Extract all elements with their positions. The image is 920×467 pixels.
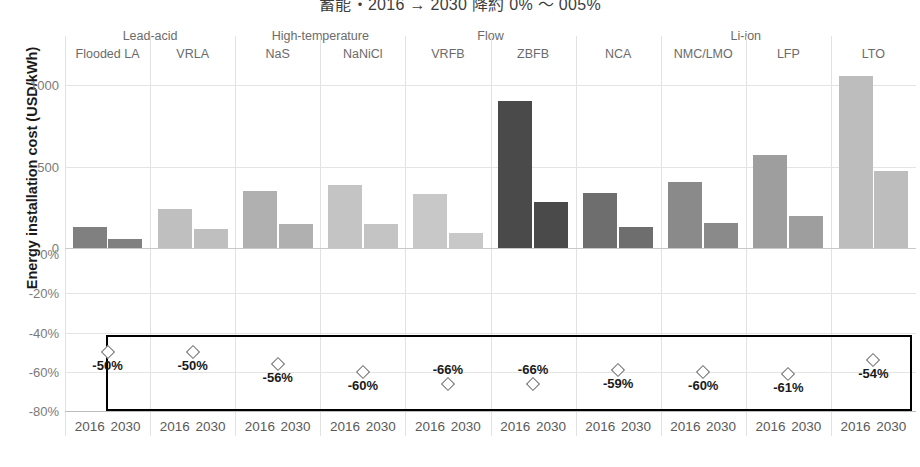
gridline bbox=[65, 333, 916, 334]
x-tick-year: 2016 bbox=[160, 419, 190, 434]
x-tick-year: 2016 bbox=[75, 419, 105, 434]
reduction-label-lto: -54% bbox=[858, 366, 888, 381]
bar-flooded-la-2030 bbox=[108, 239, 142, 248]
x-tick-year: 2030 bbox=[621, 419, 651, 434]
bar-nca-2016 bbox=[583, 193, 617, 248]
bar-nmc-lmo-2030 bbox=[704, 223, 738, 248]
bar-zbfb-2016 bbox=[498, 101, 532, 248]
bar-nas-2016 bbox=[243, 191, 277, 248]
bar-vrfb-2016 bbox=[413, 194, 447, 248]
bar-lto-2030 bbox=[874, 171, 908, 248]
bar-vrla-2030 bbox=[194, 229, 228, 248]
y-tick-percent: 0% bbox=[40, 247, 59, 262]
bar-lfp-2016 bbox=[753, 155, 787, 248]
bar-vrfb-2030 bbox=[449, 233, 483, 248]
reduction-label-nas: -56% bbox=[263, 370, 293, 385]
bar-nmc-lmo-2016 bbox=[668, 182, 702, 248]
bar-series bbox=[65, 28, 916, 248]
x-tick-year: 2016 bbox=[585, 419, 615, 434]
reduction-label-zbfb: -66% bbox=[518, 362, 548, 377]
x-tick-year: 2030 bbox=[366, 419, 396, 434]
x-tick-year: 2030 bbox=[451, 419, 481, 434]
x-tick-year: 2030 bbox=[110, 419, 140, 434]
gridline bbox=[65, 411, 916, 412]
bar-nanicl-2016 bbox=[328, 185, 362, 248]
bar-nanicl-2030 bbox=[364, 224, 398, 248]
reduction-label-vrla: -50% bbox=[177, 358, 207, 373]
gridline bbox=[65, 248, 916, 249]
y-tick-percent: -20% bbox=[29, 286, 59, 301]
bar-vrla-2016 bbox=[158, 209, 192, 248]
reduction-label-nanicl: -60% bbox=[348, 378, 378, 393]
bar-nas-2030 bbox=[279, 224, 313, 248]
x-tick-year: 2016 bbox=[755, 419, 785, 434]
x-tick-year: 2030 bbox=[706, 419, 736, 434]
y-tick-cost: 500 bbox=[37, 159, 59, 174]
x-tick-year: 2030 bbox=[281, 419, 311, 434]
chart-title: 蓄能・2016 → 2030 降約 0% ～ 005% bbox=[0, 0, 920, 15]
bar-nca-2030 bbox=[619, 227, 653, 248]
reduction-label-lfp: -61% bbox=[773, 380, 803, 395]
bar-zbfb-2030 bbox=[534, 202, 568, 248]
x-tick-year: 2016 bbox=[330, 419, 360, 434]
y-tick-percent: -60% bbox=[29, 364, 59, 379]
x-tick-year: 2016 bbox=[415, 419, 445, 434]
bar-lfp-2030 bbox=[789, 216, 823, 248]
y-tick-cost: 1000 bbox=[30, 78, 59, 93]
x-tick-year: 2016 bbox=[500, 419, 530, 434]
x-tick-year: 2030 bbox=[195, 419, 225, 434]
x-tick-year: 2016 bbox=[245, 419, 275, 434]
chart-container: 蓄能・2016 → 2030 降約 0% ～ 005% Energy insta… bbox=[0, 0, 920, 467]
x-tick-year: 2030 bbox=[876, 419, 906, 434]
reduction-label-flooded-la: -50% bbox=[92, 358, 122, 373]
reduction-label-nmc-lmo: -60% bbox=[688, 378, 718, 393]
bar-lto-2016 bbox=[839, 76, 873, 248]
reduction-label-nca: -59% bbox=[603, 376, 633, 391]
gridline bbox=[65, 293, 916, 294]
x-tick-year: 2030 bbox=[791, 419, 821, 434]
bar-flooded-la-2016 bbox=[73, 227, 107, 248]
reduction-label-vrfb: -66% bbox=[433, 362, 463, 377]
x-tick-year: 2016 bbox=[670, 419, 700, 434]
y-tick-percent: -40% bbox=[29, 325, 59, 340]
plot-area: Lead-acidHigh-temperatureFlowLi-ionFlood… bbox=[65, 28, 916, 440]
x-tick-year: 2030 bbox=[536, 419, 566, 434]
x-tick-year: 2016 bbox=[841, 419, 871, 434]
y-tick-percent: -80% bbox=[29, 404, 59, 419]
